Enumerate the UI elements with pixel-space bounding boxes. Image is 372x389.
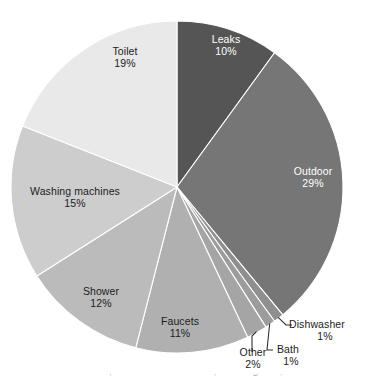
slice-label-outdoor-name: Outdoor — [273, 165, 353, 177]
slice-label-other-name: Other — [230, 346, 276, 358]
slice-label-other: Other 2% — [230, 346, 276, 371]
clipped-caption-text: Water use at home, U.S. household data, … — [18, 374, 360, 376]
slice-label-bath-name: Bath — [277, 343, 317, 355]
slice-label-toilet: Toilet 19% — [85, 45, 165, 70]
slice-label-faucets: Faucets 11% — [140, 315, 220, 340]
slice-label-bath-value: 1% — [277, 355, 305, 367]
slice-label-washing-machines-value: 15% — [18, 197, 132, 209]
slice-label-leaks-value: 10% — [186, 45, 266, 57]
slice-label-toilet-name: Toilet — [85, 45, 165, 57]
slice-label-dishwasher-name: Dishwasher — [289, 318, 372, 330]
slice-label-outdoor: Outdoor 29% — [273, 165, 353, 190]
slice-label-shower-value: 12% — [61, 297, 141, 309]
slice-label-faucets-value: 11% — [140, 327, 220, 339]
slice-label-outdoor-value: 29% — [273, 177, 353, 189]
slice-label-washing-machines-name: Washing machines — [18, 185, 132, 197]
slice-label-toilet-value: 19% — [85, 57, 165, 69]
slice-label-other-value: 2% — [230, 358, 276, 370]
slice-label-shower-name: Shower — [61, 285, 141, 297]
clipped-caption: Water use at home, U.S. household data, … — [0, 374, 372, 389]
slice-label-leaks-name: Leaks — [186, 33, 266, 45]
slice-label-washing-machines: Washing machines 15% — [18, 185, 132, 210]
slice-label-dishwasher-value: 1% — [289, 330, 361, 342]
pie-chart: Leaks 10% Outdoor 29% Faucets 11% Shower… — [0, 0, 372, 389]
slice-label-bath: Bath 1% — [277, 343, 317, 368]
slice-label-dishwasher: Dishwasher 1% — [289, 318, 372, 343]
slice-label-leaks: Leaks 10% — [186, 33, 266, 58]
slice-label-faucets-name: Faucets — [140, 315, 220, 327]
slice-label-shower: Shower 12% — [61, 285, 141, 310]
